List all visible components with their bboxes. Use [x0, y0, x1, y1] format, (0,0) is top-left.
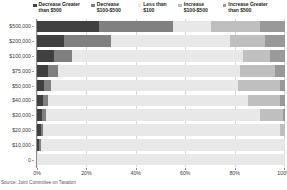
bar-segment[interactable]	[41, 139, 285, 151]
legend-item-decrease-greater-than-500[interactable]: Decrease Greater than $500	[33, 1, 86, 13]
bar-segment[interactable]	[211, 21, 261, 33]
legend-square-icon	[178, 4, 182, 8]
x-tick-mark	[235, 168, 236, 170]
y-tick-mark	[32, 71, 34, 72]
bar-segment[interactable]	[248, 95, 280, 107]
bar-row[interactable]	[37, 21, 285, 33]
x-tick-label: 40%	[131, 170, 141, 176]
bar-segment[interactable]	[37, 65, 48, 77]
y-tick-label: $200,000	[9, 38, 31, 44]
bar-segment[interactable]	[280, 124, 285, 136]
bar-row[interactable]	[37, 124, 285, 136]
legend-square-icon	[138, 4, 142, 8]
bar-segment[interactable]	[37, 80, 44, 92]
y-tick-mark	[32, 41, 34, 42]
bar-segment[interactable]	[111, 35, 230, 47]
x-tick-label: 20%	[81, 170, 91, 176]
y-tick-label: $30,000	[12, 112, 31, 118]
legend-square-icon	[33, 4, 37, 8]
y-tick-mark	[32, 160, 34, 161]
bar-series-container	[37, 19, 285, 167]
bar-segment[interactable]	[280, 80, 285, 92]
x-tick-mark	[136, 168, 137, 170]
legend-item-less-than-100[interactable]: Less than $100	[138, 1, 174, 13]
bar-segment[interactable]	[270, 50, 285, 62]
bar-segment[interactable]	[48, 95, 248, 107]
y-tick-label: $40,000	[12, 97, 31, 103]
y-tick-mark	[32, 130, 34, 131]
x-tick-label: 100%	[277, 170, 287, 176]
y-axis: $500,000$200,000$100,000$75,000$50,000$4…	[0, 19, 34, 167]
y-tick-label: $500,000	[9, 23, 31, 29]
legend-item-increase-100-500[interactable]: Increase $100-$500	[178, 1, 217, 13]
bar-segment[interactable]	[58, 65, 240, 77]
bar-row[interactable]	[37, 109, 285, 121]
bar-segment[interactable]	[283, 109, 285, 121]
stacked-bar-chart: Decrease Greater than $500 Decrease $100…	[0, 0, 287, 190]
y-tick-mark	[32, 100, 34, 101]
x-tick-mark	[185, 168, 186, 170]
bar-segment[interactable]	[275, 65, 285, 77]
y-tick-label: $10,000	[12, 142, 31, 148]
y-tick-label: $50,000	[12, 83, 31, 89]
bar-segment[interactable]	[240, 65, 275, 77]
bar-row[interactable]	[37, 139, 285, 151]
y-tick-label: 0	[28, 157, 31, 163]
legend-item-decrease-100-500[interactable]: Decrease $100-$500	[91, 1, 132, 13]
bar-row[interactable]	[37, 50, 285, 62]
bar-segment[interactable]	[51, 80, 238, 92]
legend-item-label: Decrease Greater than $500	[39, 1, 80, 13]
x-tick-label: 0%	[33, 170, 41, 176]
bar-segment[interactable]	[46, 109, 261, 121]
y-tick-mark	[32, 86, 34, 87]
x-tick-label: 80%	[229, 170, 239, 176]
bar-segment[interactable]	[37, 154, 285, 166]
plot-area	[37, 19, 285, 167]
bar-segment[interactable]	[37, 21, 99, 33]
bar-segment[interactable]	[173, 21, 210, 33]
bar-segment[interactable]	[64, 35, 111, 47]
bar-row[interactable]	[37, 80, 285, 92]
bar-row[interactable]	[37, 154, 285, 166]
bar-segment[interactable]	[54, 50, 71, 62]
legend-item-label: Less than $100	[143, 1, 166, 13]
bar-segment[interactable]	[230, 35, 265, 47]
x-tick-label: 60%	[180, 170, 190, 176]
legend-item-label: Increase $100-$500	[184, 1, 208, 13]
bar-segment[interactable]	[43, 124, 280, 136]
x-axis: 0%20%40%60%80%100%	[37, 168, 285, 180]
y-tick-label: $100,000	[9, 53, 31, 59]
bar-segment[interactable]	[265, 35, 285, 47]
bar-segment[interactable]	[238, 80, 280, 92]
legend-item-label: Decrease $100-$500	[97, 1, 121, 13]
y-tick-mark	[32, 145, 34, 146]
x-tick-mark	[86, 168, 87, 170]
chart-legend: Decrease Greater than $500 Decrease $100…	[33, 1, 287, 19]
bar-segment[interactable]	[72, 50, 243, 62]
y-tick-mark	[32, 115, 34, 116]
y-tick-mark	[32, 56, 34, 57]
x-tick-mark	[284, 168, 285, 170]
bar-segment[interactable]	[37, 35, 64, 47]
y-tick-label: $20,000	[12, 127, 31, 133]
bar-segment[interactable]	[37, 50, 54, 62]
bar-segment[interactable]	[99, 21, 173, 33]
legend-item-label: Increase Greater than $500	[228, 1, 267, 13]
y-tick-label: $75,000	[12, 68, 31, 74]
legend-item-increase-greater-than-500[interactable]: Increase Greater than $500	[223, 1, 282, 13]
legend-square-icon	[223, 4, 227, 8]
x-tick-mark	[37, 168, 38, 170]
bar-segment[interactable]	[280, 95, 285, 107]
legend-square-icon	[91, 4, 95, 8]
bar-segment[interactable]	[260, 21, 285, 33]
source-note: Source: Joint Committee on Taxation	[1, 180, 76, 186]
bar-row[interactable]	[37, 65, 285, 77]
bar-segment[interactable]	[260, 109, 282, 121]
bar-row[interactable]	[37, 95, 285, 107]
bar-row[interactable]	[37, 35, 285, 47]
bar-segment[interactable]	[243, 50, 270, 62]
bar-segment[interactable]	[48, 65, 58, 77]
y-tick-mark	[32, 26, 34, 27]
